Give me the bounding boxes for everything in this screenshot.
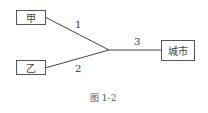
- edge-3-label: 3: [134, 37, 140, 47]
- node-jia: 甲: [16, 10, 46, 25]
- edge-2-label: 2: [75, 64, 81, 74]
- edge-1-label: 1: [75, 20, 81, 30]
- figure-caption: 图 1-2: [90, 94, 116, 103]
- node-yi: 乙: [16, 60, 46, 75]
- node-city: 城市: [161, 40, 195, 61]
